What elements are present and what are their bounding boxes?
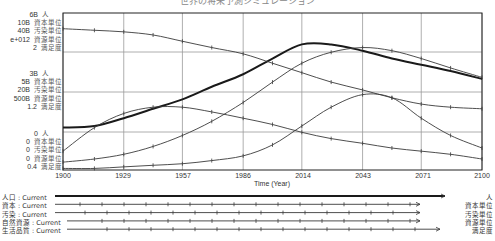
x-tick: 1929: [115, 172, 131, 179]
x-tick: 1986: [235, 172, 251, 179]
legend-unit: 満足度: [472, 225, 493, 235]
series-line: [63, 94, 482, 169]
x-tick: 1900: [55, 172, 71, 179]
series-lines: [63, 27, 482, 171]
legend-item-pollution: 汚染 : Current 汚染単位: [0, 209, 495, 217]
legend-label: 生活品質 : Current: [2, 225, 61, 235]
legend-item-quality-of-life: 生活品質 : Current 満足度: [0, 225, 495, 233]
x-tick: 2100: [474, 172, 490, 179]
series-line: [63, 29, 482, 109]
legend-item-resources: 自然資源 : Current 資源単位: [0, 217, 495, 225]
series-line: [63, 43, 482, 128]
x-tick: 1957: [175, 172, 191, 179]
legend-item-capital: 資本 : Current 資本単位: [0, 200, 495, 208]
x-tick: 2043: [355, 172, 371, 179]
x-axis-label: Time (Year): [254, 180, 290, 187]
x-tick: 2014: [295, 172, 311, 179]
legend-item-population: 人口 : Current 人: [0, 192, 495, 200]
series-line: [63, 107, 482, 160]
x-tick: 2071: [415, 172, 431, 179]
